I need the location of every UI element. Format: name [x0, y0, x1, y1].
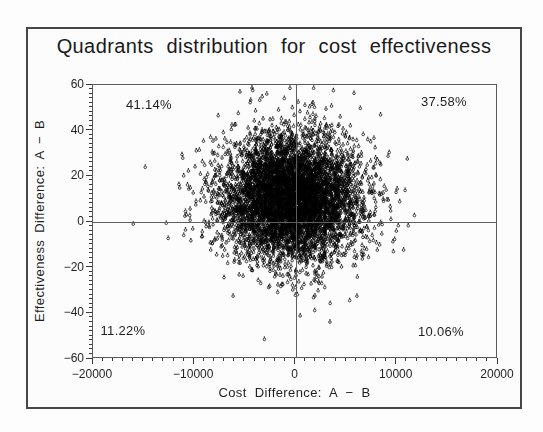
x-minor-tick: [355, 358, 356, 361]
y-minor-tick: [89, 262, 92, 263]
y-tick-label: −60: [46, 351, 84, 365]
x-minor-tick: [132, 358, 133, 361]
x-minor-tick: [335, 358, 336, 361]
x-minor-tick: [476, 358, 477, 361]
x-minor-tick: [486, 358, 487, 361]
x-minor-tick: [233, 358, 234, 361]
x-tick-label: 0: [265, 367, 325, 381]
y-major-tick: [86, 129, 92, 130]
x-minor-tick: [213, 358, 214, 361]
y-minor-tick: [89, 115, 92, 116]
y-axis-label: Effectiveness Difference: A − B: [32, 120, 47, 322]
x-minor-tick: [274, 358, 275, 361]
x-minor-tick: [183, 358, 184, 361]
x-minor-tick: [345, 358, 346, 361]
x-tick-label: −20000: [62, 367, 122, 381]
y-minor-tick: [89, 111, 92, 112]
y-minor-tick: [89, 120, 92, 121]
y-major-tick: [86, 312, 92, 313]
y-minor-tick: [89, 243, 92, 244]
y-minor-tick: [89, 252, 92, 253]
x-minor-tick: [405, 358, 406, 361]
x-minor-tick: [385, 358, 386, 361]
y-minor-tick: [89, 102, 92, 103]
y-minor-tick: [89, 198, 92, 199]
x-minor-tick: [416, 358, 417, 361]
x-major-tick: [294, 358, 295, 364]
y-minor-tick: [89, 326, 92, 327]
y-minor-tick: [89, 161, 92, 162]
zero-effectiveness-reference-line: [93, 222, 496, 223]
y-minor-tick: [89, 157, 92, 158]
y-minor-tick: [89, 193, 92, 194]
y-minor-tick: [89, 234, 92, 235]
x-minor-tick: [264, 358, 265, 361]
y-minor-tick: [89, 284, 92, 285]
quadrant-label-lower-left: 11.22%: [101, 323, 146, 338]
x-minor-tick: [112, 358, 113, 361]
y-tick-label: 40: [46, 123, 84, 137]
y-tick-label: 20: [46, 168, 84, 182]
y-minor-tick: [89, 202, 92, 203]
y-minor-tick: [89, 189, 92, 190]
y-tick-label: 0: [46, 214, 84, 228]
x-minor-tick: [162, 358, 163, 361]
quadrant-label-upper-right: 37.58%: [421, 94, 467, 109]
x-minor-tick: [173, 358, 174, 361]
x-tick-label: 20000: [467, 367, 527, 381]
y-minor-tick: [89, 134, 92, 135]
y-minor-tick: [89, 93, 92, 94]
y-minor-tick: [89, 257, 92, 258]
y-minor-tick: [89, 225, 92, 226]
x-minor-tick: [102, 358, 103, 361]
plot-area: 41.14% 37.58% 11.22% 10.06%: [92, 84, 497, 358]
x-minor-tick: [365, 358, 366, 361]
y-minor-tick: [89, 339, 92, 340]
y-minor-tick: [89, 166, 92, 167]
x-minor-tick: [152, 358, 153, 361]
x-major-tick: [395, 358, 396, 364]
y-major-tick: [86, 221, 92, 222]
y-minor-tick: [89, 289, 92, 290]
y-minor-tick: [89, 294, 92, 295]
x-minor-tick: [203, 358, 204, 361]
y-minor-tick: [89, 271, 92, 272]
y-minor-tick: [89, 321, 92, 322]
y-minor-tick: [89, 152, 92, 153]
x-minor-tick: [254, 358, 255, 361]
x-minor-tick: [426, 358, 427, 361]
y-minor-tick: [89, 344, 92, 345]
scatter-points-canvas: [93, 85, 496, 357]
x-minor-tick: [142, 358, 143, 361]
y-minor-tick: [89, 275, 92, 276]
y-minor-tick: [89, 184, 92, 185]
y-tick-label: −20: [46, 260, 84, 274]
y-minor-tick: [89, 330, 92, 331]
y-minor-tick: [89, 353, 92, 354]
x-minor-tick: [375, 358, 376, 361]
x-tick-label: 10000: [366, 367, 426, 381]
x-major-tick: [193, 358, 194, 364]
x-minor-tick: [243, 358, 244, 361]
y-major-tick: [86, 266, 92, 267]
x-minor-tick: [314, 358, 315, 361]
y-minor-tick: [89, 298, 92, 299]
x-minor-tick: [436, 358, 437, 361]
y-minor-tick: [89, 88, 92, 89]
y-minor-tick: [89, 170, 92, 171]
x-major-tick: [92, 358, 93, 364]
x-axis-label: Cost Difference: A − B: [92, 385, 497, 400]
y-minor-tick: [89, 106, 92, 107]
quadrant-label-upper-left: 41.14%: [126, 97, 172, 112]
zero-cost-reference-line: [296, 85, 297, 357]
y-minor-tick: [89, 138, 92, 139]
y-minor-tick: [89, 316, 92, 317]
y-minor-tick: [89, 230, 92, 231]
y-minor-tick: [89, 216, 92, 217]
y-major-tick: [86, 175, 92, 176]
y-tick-label: 60: [46, 77, 84, 91]
quadrant-label-lower-right: 10.06%: [418, 324, 464, 339]
y-major-tick: [86, 84, 92, 85]
x-minor-tick: [223, 358, 224, 361]
y-minor-tick: [89, 143, 92, 144]
